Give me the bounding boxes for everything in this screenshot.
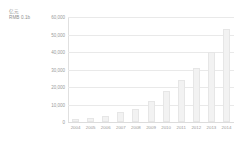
unit-caption: 亿元 RMB 0.1b: [9, 9, 30, 20]
bar[interactable]: [208, 52, 215, 122]
bar-slot: [219, 17, 234, 122]
bar[interactable]: [117, 112, 124, 122]
x-axis-labels: 2004200520062007200820092010201120122013…: [68, 125, 234, 130]
bar-slot: [68, 17, 83, 122]
bar[interactable]: [223, 29, 230, 122]
y-axis-tick-label: 0: [62, 120, 65, 125]
x-axis-tick-label: 2008: [128, 125, 143, 130]
x-axis-tick-label: 2004: [68, 125, 83, 130]
bar-slot: [128, 17, 143, 122]
bar[interactable]: [132, 109, 139, 122]
x-axis-tick-label: 2012: [189, 125, 204, 130]
y-axis-tick-label: 50,000: [51, 32, 65, 37]
bar-slot: [98, 17, 113, 122]
bar-slot: [159, 17, 174, 122]
x-axis-tick-label: 2014: [219, 125, 234, 130]
bar-series: [68, 17, 234, 122]
bar[interactable]: [178, 80, 185, 122]
unit-caption-line-2: RMB 0.1b: [9, 15, 30, 21]
bar-slot: [143, 17, 158, 122]
bar-slot: [204, 17, 219, 122]
x-axis-tick-label: 2007: [113, 125, 128, 130]
y-axis-tick-label: 60,000: [51, 15, 65, 20]
x-axis-tick-label: 2006: [98, 125, 113, 130]
plot-area: 60,00050,00040,00030,00020,00010,0000: [68, 17, 234, 122]
x-axis-tick-label: 2010: [159, 125, 174, 130]
x-axis-tick-label: 2011: [174, 125, 189, 130]
x-axis-tick-label: 2009: [143, 125, 158, 130]
y-axis-tick-label: 10,000: [51, 102, 65, 107]
bar-slot: [174, 17, 189, 122]
bar[interactable]: [163, 91, 170, 123]
chart-screenshot: 亿元 RMB 0.1b 60,00050,00040,00030,00020,0…: [0, 0, 241, 143]
y-axis-tick-label: 40,000: [51, 50, 65, 55]
x-axis-tick-label: 2013: [204, 125, 219, 130]
bar-slot: [83, 17, 98, 122]
bar-slot: [113, 17, 128, 122]
x-axis-tick-label: 2005: [83, 125, 98, 130]
bar[interactable]: [148, 101, 155, 122]
y-axis-tick-label: 20,000: [51, 85, 65, 90]
gridline: 0: [68, 122, 234, 123]
bar[interactable]: [102, 116, 109, 122]
bar-slot: [189, 17, 204, 122]
bar[interactable]: [87, 118, 94, 122]
bar[interactable]: [72, 119, 79, 122]
y-axis-tick-label: 30,000: [51, 67, 65, 72]
bar[interactable]: [193, 68, 200, 122]
